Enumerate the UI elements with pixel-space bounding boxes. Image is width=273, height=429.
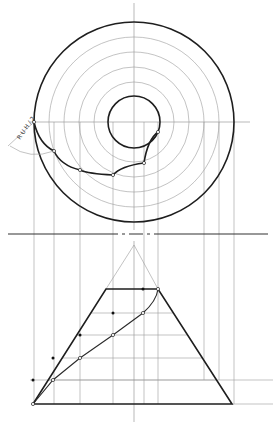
helix-point	[141, 311, 144, 314]
construction-point	[32, 379, 35, 382]
spiral-point	[142, 161, 145, 164]
helix-point	[78, 356, 81, 359]
helix-point	[111, 333, 114, 336]
front-view	[31, 241, 232, 422]
helix-point	[51, 378, 54, 381]
spiral-point	[156, 130, 159, 133]
apex-line-right	[134, 245, 158, 289]
helix-point	[156, 287, 159, 290]
construction-point	[112, 312, 115, 315]
top-view	[8, 3, 250, 230]
spiral-point	[78, 168, 81, 171]
technical-drawing: R U H / 2	[0, 0, 273, 429]
construction-point	[79, 334, 82, 337]
apex-line-left	[106, 245, 134, 289]
helix-point	[31, 402, 34, 405]
spiral-curve	[34, 122, 158, 175]
truncated-cone-outline	[33, 289, 232, 404]
spiral-point	[111, 173, 114, 176]
dimension-label: R U H / 2	[15, 115, 36, 141]
construction-point	[52, 357, 55, 360]
construction-point	[142, 288, 145, 291]
